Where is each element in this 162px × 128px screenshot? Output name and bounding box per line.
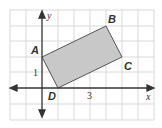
arrow-left-icon bbox=[10, 85, 17, 91]
arrow-up-icon bbox=[39, 11, 45, 18]
vertex-label-b: B bbox=[108, 13, 116, 25]
vertex-label-d: D bbox=[48, 90, 56, 102]
x-axis bbox=[10, 85, 154, 91]
vertex-label-c: C bbox=[124, 60, 133, 72]
y-tick-label: 1 bbox=[33, 67, 38, 78]
x-tick-label: 3 bbox=[87, 90, 92, 101]
x-axis-label: x bbox=[145, 91, 151, 102]
rectangle-abcd bbox=[42, 26, 122, 88]
arrow-down-icon bbox=[39, 110, 45, 117]
y-axis-label: y bbox=[46, 10, 52, 21]
vertex-label-a: A bbox=[30, 44, 39, 56]
y-axis bbox=[39, 11, 45, 117]
coordinate-plane: y x 1 3 A B C D bbox=[0, 0, 162, 128]
